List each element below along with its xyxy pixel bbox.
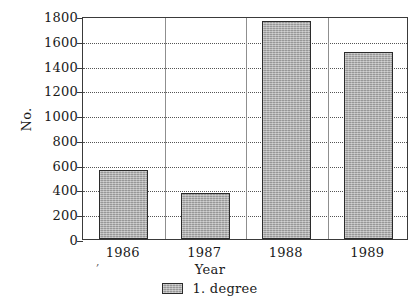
y-axis-tick [77, 43, 83, 44]
bar-1989 [344, 52, 393, 239]
y-axis-tick [77, 68, 83, 69]
x-axis-tick-label: 1988 [269, 245, 303, 260]
plot-inner [83, 18, 407, 239]
y-axis-tick [77, 241, 83, 242]
y-axis-tick [77, 167, 83, 168]
category-separator [246, 18, 247, 239]
x-axis-tick-label: 1987 [187, 245, 221, 260]
legend-label-1-degree: 1. degree [192, 281, 257, 296]
x-axis-tick-label: 1986 [106, 245, 140, 260]
legend-swatch-1-degree [162, 283, 183, 294]
bar-chart: No. 020040060080010001200140016001800 19… [0, 0, 420, 300]
y-axis-tick-label: 800 [34, 134, 78, 147]
y-axis-tick-label: 1800 [34, 11, 78, 24]
chart-legend: 1. degree [0, 281, 420, 296]
x-axis-tick-label: 1989 [350, 245, 384, 260]
plot-area [82, 17, 408, 240]
y-axis-tick-label: 1600 [34, 35, 78, 48]
category-separator [165, 18, 166, 239]
y-axis-tick-label: 400 [34, 184, 78, 197]
gridline [83, 43, 407, 44]
y-axis-tick-label: 600 [34, 159, 78, 172]
bar-1987 [181, 193, 230, 239]
y-axis-tick [77, 142, 83, 143]
y-axis-tick-labels: 020040060080010001200140016001800 [32, 0, 78, 300]
bar-1986 [99, 170, 148, 239]
category-separator [328, 18, 329, 239]
y-axis-tick-label: 0 [34, 234, 78, 247]
y-axis-tick [77, 191, 83, 192]
y-axis-tick [77, 216, 83, 217]
y-axis-tick [77, 18, 83, 19]
y-axis-tick-label: 1400 [34, 60, 78, 73]
y-axis-tick-label: 1000 [34, 110, 78, 123]
y-axis-tick [77, 117, 83, 118]
y-axis-tick-label: 200 [34, 209, 78, 222]
x-axis-title: Year [0, 262, 420, 277]
y-axis-tick [77, 92, 83, 93]
bar-1988 [262, 21, 311, 239]
y-axis-tick-label: 1200 [34, 85, 78, 98]
